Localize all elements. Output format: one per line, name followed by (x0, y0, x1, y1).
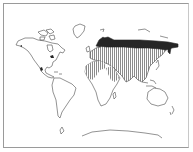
mexico-dark-spot (40, 67, 43, 71)
british-isles-outline (86, 46, 90, 52)
japan-outline (156, 60, 159, 70)
caribbean-islands-outline (54, 72, 62, 74)
africa-hatched-region (85, 61, 106, 80)
great-lakes-dark-spot (50, 55, 54, 58)
australia-outline (147, 88, 168, 106)
new-zealand-outline (170, 106, 174, 115)
greenland-outline (73, 24, 85, 38)
antarctic-peninsula-outline (60, 127, 64, 134)
hudson-bay-outline (47, 45, 53, 52)
antarctica-outline (82, 130, 162, 138)
madagascar-outline (113, 92, 116, 99)
world-map (0, 0, 193, 152)
kamchatka-outline (168, 48, 171, 54)
arctic-russia-islands-outline (100, 29, 168, 38)
arctic-islands-outline (38, 29, 55, 40)
south-america-outline (52, 78, 76, 118)
indonesia-outline (142, 80, 156, 88)
